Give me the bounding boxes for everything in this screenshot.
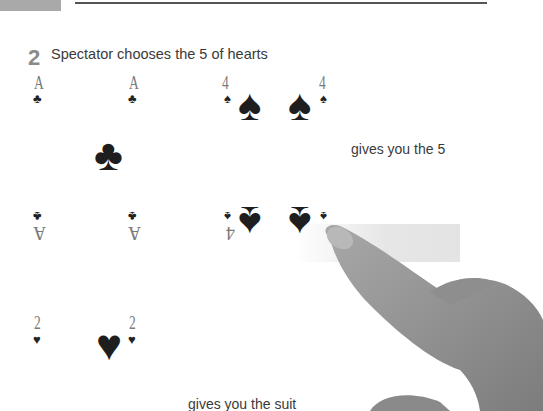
club-icon: ♣ bbox=[33, 210, 42, 223]
card-rank: 4 bbox=[222, 74, 229, 92]
spade-icon: ♠ bbox=[238, 83, 261, 127]
card-rank: 2 bbox=[129, 314, 136, 332]
club-icon: ♣ bbox=[94, 133, 123, 177]
header-rule bbox=[75, 2, 487, 4]
step-number: 2 bbox=[28, 47, 40, 69]
spade-icon: ♠ bbox=[320, 92, 327, 105]
spade-icon: ♠ bbox=[288, 83, 311, 127]
club-icon: ♣ bbox=[128, 92, 137, 105]
pointing-hand-image bbox=[300, 220, 543, 411]
chapter-tab bbox=[0, 0, 61, 11]
heart-icon: ♥ bbox=[128, 333, 136, 346]
card-rank: 4 bbox=[319, 74, 326, 92]
spade-icon: ♠ bbox=[238, 200, 261, 244]
card-rank: A bbox=[33, 224, 46, 242]
card-rank: A bbox=[128, 224, 141, 242]
spade-icon: ♠ bbox=[224, 210, 231, 223]
heart-icon: ♥ bbox=[33, 333, 41, 346]
spade-icon: ♠ bbox=[224, 92, 231, 105]
caption-suit: gives you the suit bbox=[188, 397, 296, 411]
step-instruction: Spectator chooses the 5 of hearts bbox=[51, 46, 268, 63]
club-icon: ♣ bbox=[128, 210, 137, 223]
heart-icon: ♥ bbox=[96, 323, 122, 367]
card-rank: 4 bbox=[226, 224, 235, 242]
card-rank: 2 bbox=[34, 314, 41, 332]
caption-value: gives you the 5 bbox=[351, 142, 445, 156]
club-icon: ♣ bbox=[33, 92, 42, 105]
card-rank: A bbox=[34, 74, 44, 92]
card-rank: A bbox=[129, 74, 139, 92]
